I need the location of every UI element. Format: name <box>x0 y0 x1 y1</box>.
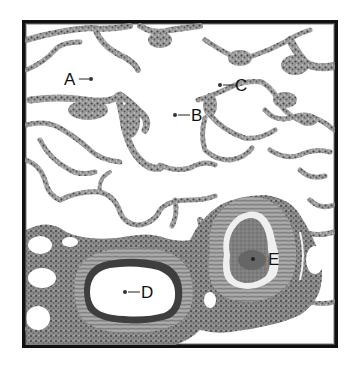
label-e-text: E <box>268 250 279 269</box>
blood-vessel-e <box>208 197 296 302</box>
lung-micrograph: A B C D E <box>0 0 359 368</box>
pointer-dot-c <box>218 83 222 87</box>
pointer-dot-a <box>89 77 93 81</box>
pointer-dot-d <box>123 290 127 294</box>
label-d-text: D <box>141 283 153 302</box>
label-b-text: B <box>191 106 202 125</box>
label-c-text: C <box>235 76 247 95</box>
pointer-dot-b <box>173 113 177 117</box>
pointer-dot-e <box>251 257 255 261</box>
label-a-text: A <box>64 70 76 89</box>
bronchiole-d <box>75 247 193 333</box>
